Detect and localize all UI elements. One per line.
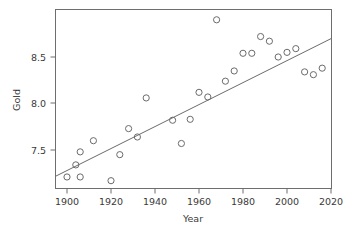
x-axis-title: Year	[182, 213, 203, 224]
data-point	[187, 116, 193, 122]
data-point	[205, 94, 211, 100]
scatter-plot: 1900 1920 1940 1960 1980 2000 2020 8.5 8…	[0, 0, 358, 231]
x-tick-label: 1980	[231, 196, 255, 207]
data-point	[77, 174, 83, 180]
data-point	[249, 50, 255, 56]
y-axis-ticks	[51, 57, 56, 150]
x-tick-labels: 1900 1920 1940 1960 1980 2000 2020	[55, 196, 343, 207]
data-point	[231, 68, 237, 74]
plot-frame	[56, 10, 332, 189]
y-tick-labels: 8.5 8.0 7.5	[31, 52, 46, 156]
data-point	[310, 72, 316, 78]
data-point	[266, 38, 272, 44]
data-point	[302, 69, 308, 75]
data-point	[126, 126, 132, 132]
data-point	[117, 152, 123, 158]
x-tick-label: 2020	[319, 196, 343, 207]
trend-line	[56, 38, 332, 176]
y-tick-label: 8.5	[31, 52, 46, 63]
y-tick-label: 8.0	[31, 98, 46, 109]
data-point	[258, 33, 264, 39]
x-tick-label: 1920	[99, 196, 123, 207]
x-tick-label: 2000	[275, 196, 299, 207]
data-point	[214, 17, 220, 23]
data-point	[77, 149, 83, 155]
data-point	[293, 46, 299, 52]
x-tick-label: 1960	[187, 196, 211, 207]
data-points-group	[64, 17, 325, 184]
x-axis-ticks	[67, 189, 331, 194]
data-point	[196, 89, 202, 95]
chart-figure: 1900 1920 1940 1960 1980 2000 2020 8.5 8…	[0, 0, 358, 231]
data-point	[284, 49, 290, 55]
x-tick-label: 1940	[143, 196, 167, 207]
data-point	[319, 65, 325, 71]
x-tick-label: 1900	[55, 196, 79, 207]
data-point	[64, 174, 70, 180]
data-point	[222, 78, 228, 84]
data-point	[178, 140, 184, 146]
data-point	[108, 178, 114, 184]
data-point	[275, 54, 281, 60]
y-tick-label: 7.5	[31, 145, 46, 156]
data-point	[143, 95, 149, 101]
data-point	[90, 138, 96, 144]
y-axis-title: Gold	[11, 89, 22, 111]
data-point	[240, 50, 246, 56]
